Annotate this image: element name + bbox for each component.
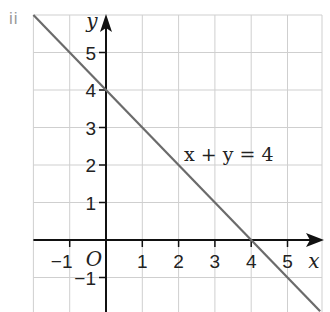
x-tick-label: 5 bbox=[282, 251, 293, 272]
y-tick-label: 1 bbox=[85, 193, 96, 214]
x-tick-label: 4 bbox=[246, 251, 257, 272]
x-tick-label: −1 bbox=[51, 251, 73, 272]
line-chart: −112345−112345 xyOx + y = 4 bbox=[0, 0, 330, 312]
y-tick-label: 3 bbox=[85, 118, 96, 139]
equation-label: x + y = 4 bbox=[184, 143, 274, 165]
origin-label: O bbox=[86, 247, 102, 271]
x-axis-label: x bbox=[308, 249, 319, 273]
x-tick-label: 3 bbox=[210, 251, 221, 272]
y-tick-label: 2 bbox=[85, 155, 96, 176]
x-tick-label: 1 bbox=[137, 251, 148, 272]
y-axis-label: y bbox=[85, 9, 98, 33]
axis-labels: xyOx + y = 4 bbox=[85, 9, 319, 273]
x-tick-label: 2 bbox=[173, 251, 184, 272]
y-tick-label: 5 bbox=[85, 43, 96, 64]
y-tick-label: 4 bbox=[85, 80, 96, 101]
